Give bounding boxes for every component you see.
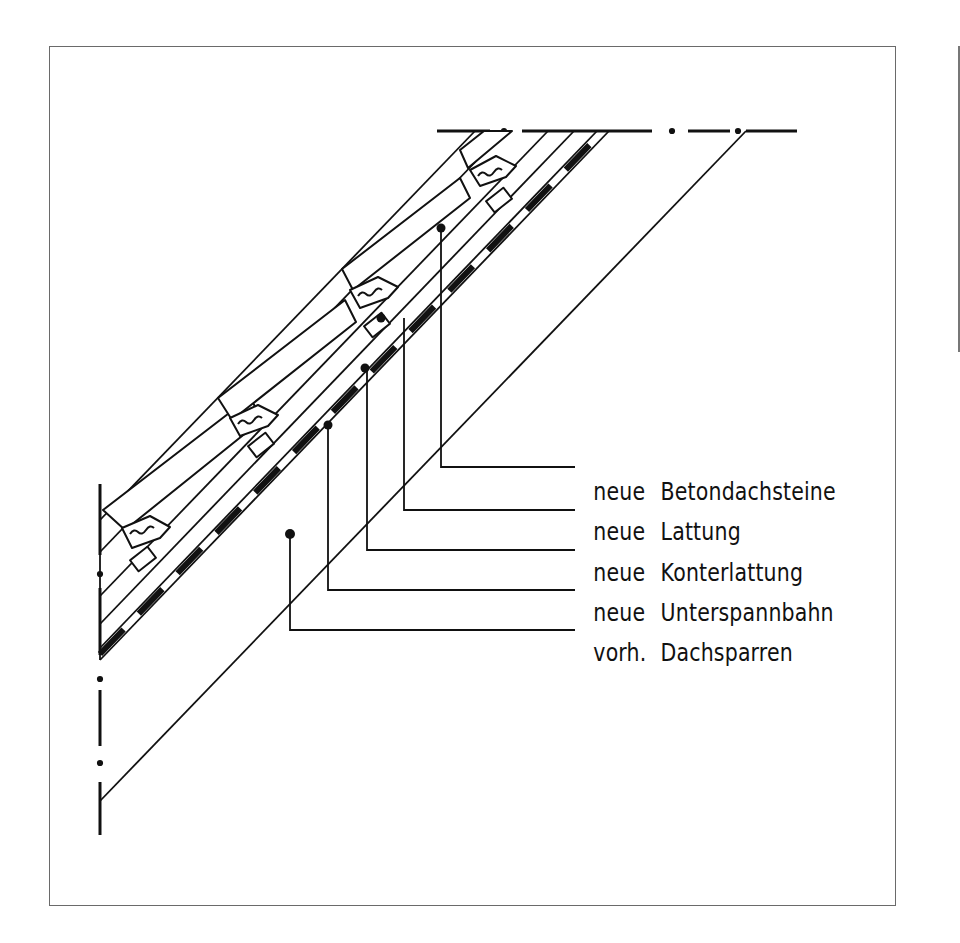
callout-term: Dachsparren: [661, 638, 793, 667]
callout-dachsparren: vorh.Dachsparren: [580, 615, 793, 665]
leader-lines: [290, 228, 575, 630]
concrete-roof-tiles: [103, 131, 516, 571]
callout-prefix: vorh.: [593, 640, 660, 665]
underlay-membrane: [100, 131, 609, 660]
